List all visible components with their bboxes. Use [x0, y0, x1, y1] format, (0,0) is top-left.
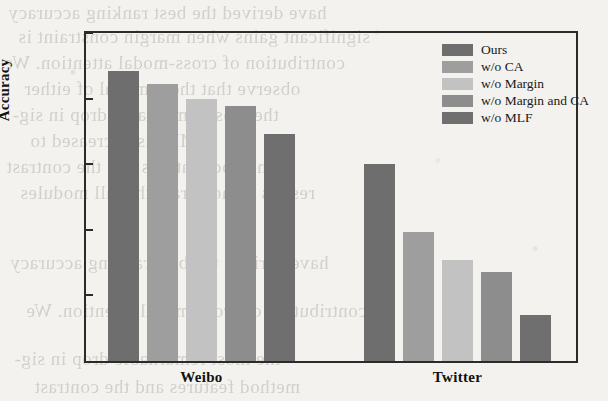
plot-area: 0.950.900.850.800.750.70 Oursw/o CAw/o M…	[84, 31, 578, 363]
bar	[403, 232, 434, 361]
legend-swatch-icon	[442, 61, 473, 73]
bar	[481, 272, 512, 361]
legend-item: w/o Margin	[442, 76, 589, 91]
legend-item: w/o Margin and CA	[442, 93, 589, 108]
bar	[108, 71, 139, 361]
legend-label: w/o Margin	[481, 77, 544, 91]
bar	[186, 99, 217, 361]
legend-item: w/o MLF	[442, 110, 589, 125]
bar	[264, 134, 295, 361]
bar	[364, 164, 395, 361]
y-tick-mark	[86, 32, 93, 34]
legend-label: w/o CA	[481, 60, 523, 74]
bar	[147, 84, 178, 361]
legend-item: Ours	[442, 42, 589, 57]
legend-label: Ours	[481, 43, 507, 57]
legend-swatch-icon	[442, 95, 473, 107]
y-tick-mark	[86, 229, 93, 231]
bar	[225, 106, 256, 361]
bar-chart-figure: Accuracy 0.950.900.850.800.750.70 Oursw/…	[0, 0, 608, 401]
x-axis-group-label: Twitter	[388, 369, 528, 386]
legend-swatch-icon	[442, 78, 473, 90]
x-axis-group-label: Weibo	[132, 369, 272, 386]
legend: Oursw/o CAw/o Marginw/o Margin and CAw/o…	[442, 42, 589, 125]
legend-label: w/o MLF	[481, 111, 532, 125]
y-tick-mark	[86, 98, 93, 100]
legend-swatch-icon	[442, 44, 473, 56]
bar	[442, 260, 473, 361]
legend-label: w/o Margin and CA	[481, 94, 589, 108]
y-tick-mark	[86, 163, 93, 165]
legend-item: w/o CA	[442, 59, 589, 74]
y-tick-mark	[86, 294, 93, 296]
legend-swatch-icon	[442, 112, 473, 124]
y-axis-title: Accuracy	[0, 30, 13, 150]
bar	[520, 315, 551, 361]
